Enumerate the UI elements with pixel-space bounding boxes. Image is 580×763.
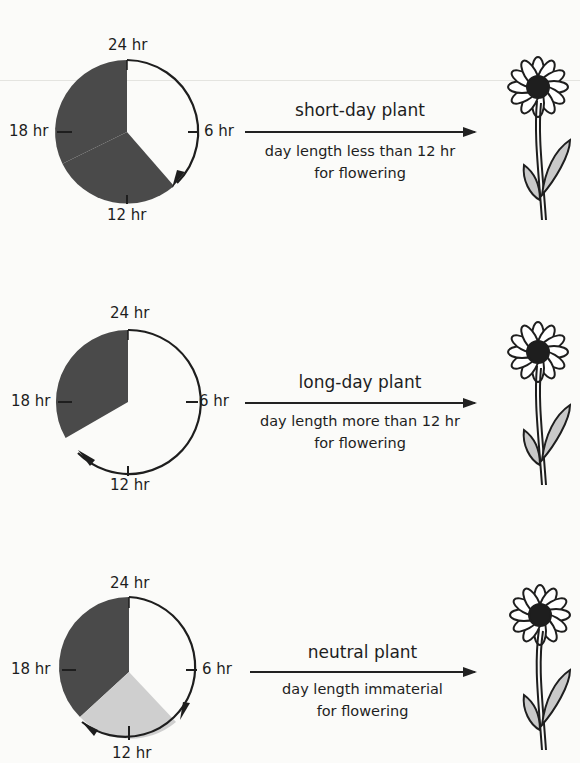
label-6hr: 6 hr xyxy=(202,660,232,678)
label-18hr: 18 hr xyxy=(11,660,51,678)
plant-type-label: long-day plant xyxy=(245,372,475,392)
plant-description: day length immaterial for flowering xyxy=(250,678,475,722)
description-line-1: day length less than 12 hr xyxy=(245,140,475,162)
description-line-2: for flowering xyxy=(245,432,475,454)
label-18hr: 18 hr xyxy=(11,392,51,410)
plant-description: day length less than 12 hr for flowering xyxy=(245,140,475,184)
flower-icon xyxy=(500,575,580,755)
plant-description: day length more than 12 hr for flowering xyxy=(245,410,475,454)
neutral-row: 24 hr 6 hr 12 hr 18 hr neutral plant day… xyxy=(0,560,580,763)
flow-arrow xyxy=(245,131,475,133)
plant-type-label: neutral plant xyxy=(250,642,475,662)
flow-arrow xyxy=(250,671,475,673)
long-day-row: 24 hr 6 hr 12 hr 18 hr long-day plant da… xyxy=(0,290,580,510)
label-6hr: 6 hr xyxy=(199,392,229,410)
label-12hr: 12 hr xyxy=(110,476,150,494)
flow-arrow xyxy=(245,402,475,404)
description-line-2: for flowering xyxy=(245,162,475,184)
description-line-1: day length more than 12 hr xyxy=(245,410,475,432)
label-18hr: 18 hr xyxy=(9,122,49,140)
plant-type-label: short-day plant xyxy=(245,100,475,120)
label-24hr: 24 hr xyxy=(110,304,150,322)
flower-icon xyxy=(500,45,580,225)
description-line-1: day length immaterial xyxy=(250,678,475,700)
short-day-row: 24 hr 6 hr 12 hr 18 hr short-day plant d… xyxy=(0,0,580,250)
night-sector xyxy=(56,330,128,438)
clockwise-arrowhead xyxy=(172,170,185,188)
label-24hr: 24 hr xyxy=(110,574,150,592)
clockwise-arrowhead xyxy=(180,702,190,720)
label-12hr: 12 hr xyxy=(107,206,147,224)
description-line-2: for flowering xyxy=(250,700,475,722)
label-12hr: 12 hr xyxy=(112,744,152,762)
flower-icon xyxy=(500,310,580,490)
label-6hr: 6 hr xyxy=(204,122,234,140)
label-24hr: 24 hr xyxy=(108,36,148,54)
